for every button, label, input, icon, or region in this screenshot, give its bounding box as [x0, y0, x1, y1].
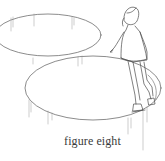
- skater-girl: [110, 7, 156, 112]
- ice-drips-upper: [11, 14, 82, 66]
- caption: figure eight: [0, 134, 165, 149]
- illustration-frame: figure eight: [0, 0, 165, 161]
- upper-ice-circle: [0, 14, 101, 56]
